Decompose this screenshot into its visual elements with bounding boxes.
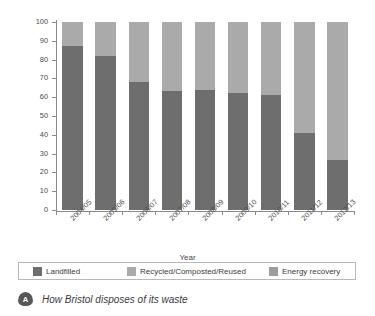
legend-swatch: [127, 267, 136, 276]
y-tick: 40: [0, 135, 56, 136]
bar-segment: [162, 91, 183, 210]
bar-segment: [62, 22, 83, 46]
bar-segment: [261, 95, 282, 210]
x-tick-mark: [122, 211, 123, 215]
legend-label: Landfilled: [46, 267, 80, 276]
y-tick: 30: [0, 154, 56, 155]
y-tick-label: 70: [20, 75, 48, 82]
y-tick: 0: [0, 210, 56, 211]
bar-column: [327, 22, 348, 210]
bar-segment: [129, 82, 150, 210]
bar-column: [228, 22, 249, 210]
bar-column: [129, 22, 150, 210]
bar-column: [162, 22, 183, 210]
x-tick-mark: [89, 211, 90, 215]
x-tick-mark: [354, 211, 355, 215]
bar-column: [62, 22, 83, 210]
y-tick-label: 10: [20, 187, 48, 194]
legend-item: Landfilled: [33, 267, 80, 276]
legend-item: Energy recovery: [269, 267, 340, 276]
x-tick-mark: [188, 211, 189, 215]
x-tick-mark: [155, 211, 156, 215]
y-tick: 70: [0, 78, 56, 79]
y-tick: 100: [0, 22, 56, 23]
y-tick-label: 60: [20, 93, 48, 100]
y-tick-label: 90: [20, 37, 48, 44]
bar-segment: [294, 133, 315, 210]
bar-segment: [261, 22, 282, 95]
chart-legend: LandfilledRecycled/Composted/ReusedEnerg…: [18, 262, 356, 280]
bar-column: [261, 22, 282, 210]
bar-segment: [327, 22, 348, 160]
bar-column: [294, 22, 315, 210]
bar-segment: [228, 22, 249, 93]
plot-area: [56, 22, 354, 210]
legend-items: LandfilledRecycled/Composted/ReusedEnerg…: [19, 263, 355, 279]
figure-caption: A How Bristol disposes of its waste: [18, 292, 188, 306]
chart-figure: % of total waste 0102030405060708090100 …: [0, 0, 375, 316]
bar-column: [195, 22, 216, 210]
legend-swatch: [269, 267, 278, 276]
y-tick-label: 30: [20, 150, 48, 157]
caption-badge-icon: A: [18, 292, 33, 306]
x-tick-mark: [56, 211, 57, 215]
bar-segment: [195, 22, 216, 90]
y-tick-label: 80: [20, 56, 48, 63]
x-axis-title: Year: [0, 253, 375, 262]
bar-column: [95, 22, 116, 210]
y-tick-label: 50: [20, 112, 48, 119]
caption-text: How Bristol disposes of its waste: [42, 294, 188, 305]
bar-series-group: [56, 22, 354, 210]
bar-segment: [294, 22, 315, 133]
legend-label: Energy recovery: [282, 267, 340, 276]
x-tick-mark: [321, 211, 322, 215]
y-tick: 20: [0, 172, 56, 173]
bar-segment: [95, 22, 116, 56]
legend-item: Recycled/Composted/Reused: [127, 267, 246, 276]
bar-segment: [62, 46, 83, 210]
y-tick-label: 20: [20, 169, 48, 176]
bar-segment: [195, 90, 216, 210]
bar-segment: [129, 22, 150, 82]
bar-segment: [95, 56, 116, 210]
legend-label: Recycled/Composted/Reused: [140, 267, 246, 276]
bar-segment: [228, 93, 249, 210]
y-tick-label: 100: [20, 18, 48, 25]
legend-swatch: [33, 267, 42, 276]
y-tick: 90: [0, 41, 56, 42]
y-tick: 80: [0, 60, 56, 61]
x-tick-mark: [288, 211, 289, 215]
y-tick-label: 40: [20, 131, 48, 138]
y-tick-label: 0: [20, 206, 48, 213]
y-tick: 60: [0, 97, 56, 98]
x-tick-mark: [255, 211, 256, 215]
y-tick: 10: [0, 191, 56, 192]
y-tick: 50: [0, 116, 56, 117]
x-tick-mark: [222, 211, 223, 215]
bar-segment: [162, 22, 183, 91]
